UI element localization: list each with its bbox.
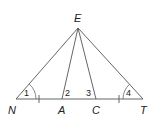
vertex-label-a: A [57, 104, 65, 116]
angle-label-4: 4 [126, 88, 131, 98]
vertex-label-c: C [92, 104, 100, 116]
angle-label-1: 1 [24, 88, 29, 98]
angle-arc-1 [29, 84, 36, 99]
vertex-label-e: E [74, 12, 82, 24]
angle-label-3: 3 [86, 88, 91, 98]
vertex-label-n: N [8, 104, 16, 116]
triangle-diagram: 1 2 3 4 E N A C T [0, 0, 154, 119]
vertex-label-t: T [140, 104, 148, 116]
angle-label-2: 2 [65, 88, 70, 98]
